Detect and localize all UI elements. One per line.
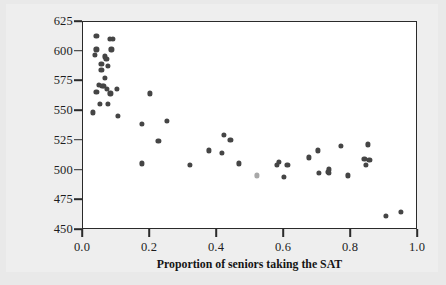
scatter-point [139, 122, 144, 127]
y-axis-tick [74, 20, 82, 22]
x-axis-tick [282, 229, 284, 237]
scatter-points-layer [83, 22, 416, 228]
scatter-point [345, 173, 350, 178]
scatter-point [94, 90, 99, 95]
scatter-point [281, 174, 286, 179]
scatter-point [317, 170, 322, 175]
scatter-point [108, 91, 113, 96]
scatter-point [363, 162, 368, 167]
y-axis-tick [74, 50, 82, 52]
scatter-point [114, 86, 119, 91]
scatter-point [106, 101, 111, 106]
scatter-point [94, 47, 99, 52]
x-axis-title: Proportion of seniors taking the SAT [82, 257, 417, 272]
y-axis-tick [74, 139, 82, 141]
scatter-point [255, 173, 260, 178]
y-axis-tick-label: 450 [33, 222, 73, 237]
scatter-plot-screenshot: State average SAT Mathematics score 4504… [0, 0, 446, 285]
y-axis-tick-label: 525 [33, 132, 73, 147]
scatter-point [236, 161, 241, 166]
x-axis-tick [215, 229, 217, 237]
scatter-point [384, 213, 389, 218]
y-axis-tick-label: 575 [33, 73, 73, 88]
scatter-point [147, 91, 152, 96]
y-axis-tick [74, 169, 82, 171]
scatter-point [365, 142, 370, 147]
scatter-point [94, 34, 99, 39]
y-axis-tick-label: 550 [33, 103, 73, 118]
scatter-point [109, 47, 114, 52]
x-axis-tick-label: 1.0 [395, 240, 439, 255]
scatter-point [307, 155, 312, 160]
scatter-point [99, 67, 104, 72]
y-axis-tick-label: 500 [33, 162, 73, 177]
scatter-point [92, 53, 97, 58]
scatter-point [99, 61, 104, 66]
x-axis-tick-label: 0.2 [127, 240, 171, 255]
scatter-point [338, 143, 343, 148]
y-axis-tick [74, 80, 82, 82]
x-axis-tick [416, 229, 418, 237]
x-axis-tick [81, 229, 83, 237]
scatter-point [206, 148, 211, 153]
scatter-point [156, 138, 161, 143]
scatter-point [164, 118, 169, 123]
scatter-point [228, 137, 233, 142]
y-axis-tick-label: 600 [33, 43, 73, 58]
scatter-point [106, 63, 111, 68]
scatter-point [188, 162, 193, 167]
scatter-point [104, 56, 109, 61]
scatter-point [399, 210, 404, 215]
x-axis-tick-label: 0.8 [328, 240, 372, 255]
x-axis-tick [148, 229, 150, 237]
x-axis-tick [349, 229, 351, 237]
y-axis-tick [74, 198, 82, 200]
plot-area [82, 21, 417, 229]
scatter-point [90, 110, 95, 115]
x-axis-tick-label: 0.4 [194, 240, 238, 255]
scatter-point [327, 170, 332, 175]
scatter-point [116, 113, 121, 118]
y-axis-tick-label: 475 [33, 192, 73, 207]
scatter-point [221, 132, 226, 137]
x-axis-tick-label: 0.0 [60, 240, 104, 255]
scatter-point [219, 150, 224, 155]
x-axis-tick-label: 0.6 [261, 240, 305, 255]
scatter-point [139, 161, 144, 166]
scatter-point [102, 75, 107, 80]
scatter-point [285, 162, 290, 167]
scatter-point [97, 101, 102, 106]
y-axis-tick [74, 109, 82, 111]
scatter-point [315, 148, 320, 153]
y-axis-tick-label: 625 [33, 14, 73, 29]
scatter-point [275, 162, 280, 167]
